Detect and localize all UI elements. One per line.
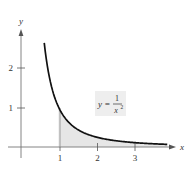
x-tick-label-3: 3 — [133, 153, 138, 163]
y-axis-label: y — [18, 16, 23, 26]
y-axis-arrow-icon — [19, 29, 24, 36]
x-axis-arrow-icon — [169, 145, 176, 150]
x-tick-label-1: 1 — [58, 153, 63, 163]
equation-denominator: x — [113, 106, 118, 115]
chart: 1 2 3 1 2 x y y = 1 x 2 — [0, 0, 190, 171]
equation-exponent: 2 — [121, 104, 124, 110]
x-axis-label: x — [179, 142, 184, 152]
equation-numerator: 1 — [115, 94, 119, 103]
x-tick-label-2: 2 — [95, 153, 100, 163]
y-tick-label-1: 1 — [9, 103, 14, 113]
equation-lhs: y = — [97, 99, 110, 109]
y-tick-label-2: 2 — [9, 63, 14, 73]
